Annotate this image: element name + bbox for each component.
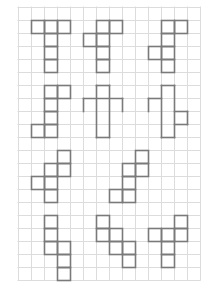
net-square xyxy=(45,112,58,125)
grid-canvas xyxy=(0,0,212,308)
net-square xyxy=(45,99,58,112)
net-square xyxy=(110,242,123,255)
net-square xyxy=(45,190,58,203)
net-square xyxy=(58,242,71,255)
net-square xyxy=(45,21,58,34)
net-square xyxy=(32,21,45,34)
net-square xyxy=(97,21,110,34)
net-square xyxy=(110,190,123,203)
net-square xyxy=(123,164,136,177)
net-square xyxy=(162,21,175,34)
net-square xyxy=(162,60,175,73)
net-square xyxy=(45,86,58,99)
net-square xyxy=(162,255,175,268)
net-square xyxy=(175,21,188,34)
net-square xyxy=(123,255,136,268)
net-square xyxy=(136,151,149,164)
net-square xyxy=(162,47,175,60)
net-square xyxy=(58,151,71,164)
net-square xyxy=(123,177,136,190)
net-square xyxy=(110,21,123,34)
net-square xyxy=(97,216,110,229)
net-square xyxy=(175,229,188,242)
net-square xyxy=(32,177,45,190)
net-square xyxy=(58,268,71,281)
net-square xyxy=(162,229,175,242)
net-square xyxy=(45,125,58,138)
cube-net-fig-7 xyxy=(32,151,71,203)
net-square xyxy=(97,47,110,60)
net-square xyxy=(136,164,149,177)
net-square xyxy=(149,229,162,242)
net-square xyxy=(45,177,58,190)
net-square xyxy=(45,242,58,255)
net-square xyxy=(58,255,71,268)
net-square xyxy=(175,216,188,229)
net-square xyxy=(58,86,71,99)
net-square xyxy=(45,47,58,60)
net-square xyxy=(84,34,97,47)
net-square xyxy=(58,164,71,177)
cube-net-fig-10 xyxy=(97,216,136,268)
net-square xyxy=(162,242,175,255)
net-square xyxy=(149,47,162,60)
net-square xyxy=(97,229,110,242)
net-square xyxy=(123,190,136,203)
net-square xyxy=(45,229,58,242)
net-square xyxy=(97,60,110,73)
net-square xyxy=(123,242,136,255)
net-square xyxy=(97,34,110,47)
net-square xyxy=(32,125,45,138)
net-square xyxy=(110,229,123,242)
net-square xyxy=(45,60,58,73)
net-square xyxy=(162,34,175,47)
net-square xyxy=(45,164,58,177)
net-square xyxy=(45,34,58,47)
cube-net-fig-11 xyxy=(149,216,188,268)
net-square xyxy=(58,21,71,34)
net-square xyxy=(45,216,58,229)
cube-net-fig-9 xyxy=(45,216,71,281)
